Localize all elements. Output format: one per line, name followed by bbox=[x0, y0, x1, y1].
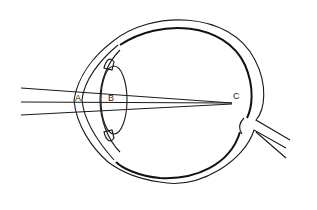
label-c: C bbox=[233, 91, 240, 101]
label-a: A bbox=[75, 93, 81, 103]
sclera-outer bbox=[108, 20, 290, 183]
label-b: B bbox=[108, 93, 114, 103]
eye-diagram: A B C bbox=[0, 0, 317, 210]
